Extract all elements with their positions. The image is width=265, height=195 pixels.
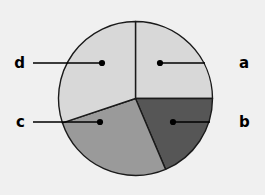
- pie-chart-figure: abcd: [0, 0, 265, 195]
- slice-label-d: d: [14, 54, 25, 72]
- slice-label-c: c: [16, 113, 25, 131]
- leader-dot-b: [170, 119, 176, 125]
- leader-dot-d: [99, 60, 105, 66]
- pie-slices-group: [59, 22, 213, 176]
- slice-label-b: b: [239, 113, 250, 131]
- leader-dot-a: [157, 60, 163, 66]
- slice-label-a: a: [239, 54, 249, 72]
- pie-chart-canvas: abcd: [0, 0, 265, 195]
- pie-slice-a[interactable]: [136, 22, 213, 99]
- leader-dot-c: [97, 119, 103, 125]
